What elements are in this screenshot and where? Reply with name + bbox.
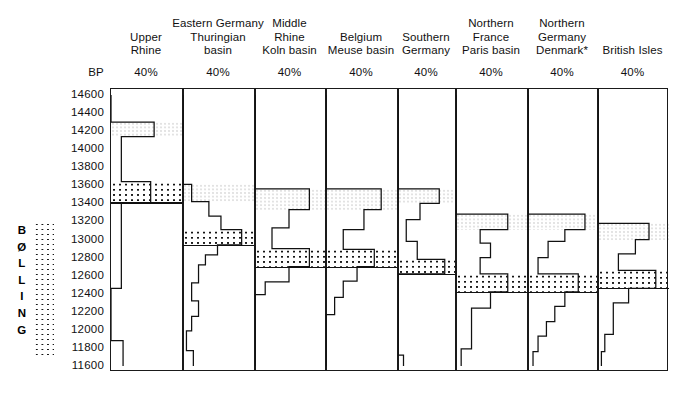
zone-legend-swatch [34,222,54,356]
y-tick-label: 12800 [71,251,104,263]
curve-belgium [326,89,398,370]
column-scale-northern-germany: 40% [527,66,597,78]
y-tick-label: 14000 [71,142,104,154]
column-scale-belgium: 40% [325,66,397,78]
curve-eastern-germany [183,89,255,370]
y-tick-label: 12000 [71,323,104,335]
column-panel-british-isles [598,89,669,370]
y-tick-label: 13400 [71,196,104,208]
curve-upper-rhine [111,89,183,370]
curve-outline [598,95,656,366]
column-panel-belgium [326,89,398,370]
column-title-british-isles: British Isles [583,44,682,58]
curve-outline [326,95,381,366]
curve-outline [111,95,154,366]
y-axis-ticks: 1460014400142001400013800136001340013200… [48,0,104,397]
curve-outline [398,95,445,366]
y-tick-label: 11800 [72,341,104,353]
pollen-diagram-figure: BP 1460014400142001400013800136001340013… [0,0,689,397]
y-tick-label: 13800 [71,160,104,172]
column-scale-northern-france: 40% [455,66,527,78]
curve-southern-germany [398,89,456,370]
column-panel-southern-germany [398,89,456,370]
zone-letter: B [14,222,30,239]
column-scale-upper-rhine: 40% [110,66,182,78]
y-tick-label: 13000 [71,233,104,245]
y-tick-label: 12600 [71,269,104,281]
y-tick-label: 12400 [71,287,104,299]
column-panel-northern-germany [528,89,598,370]
zone-letter: Ø [14,239,30,256]
y-tick-label: 14200 [71,124,104,136]
curve-outline [183,95,242,366]
y-tick-label: 12200 [71,305,104,317]
column-panel-eastern-germany [183,89,255,370]
zone-letter: L [14,272,30,289]
zone-letter: I [14,288,30,305]
zone-letter: N [14,305,30,322]
curve-middle-rhine [255,89,326,370]
y-tick-label: 14600 [71,88,104,100]
zone-legend-label: BØLLING [14,222,30,338]
zone-letter: G [14,322,30,339]
curve-northern-france [456,89,528,370]
y-tick-label: 13200 [71,214,104,226]
y-tick-label: 11600 [72,359,104,371]
column-panel-northern-france [456,89,528,370]
zone-letter: L [14,255,30,272]
column-panel-upper-rhine [111,89,183,370]
plot-area [110,88,668,371]
curve-northern-germany [528,89,598,370]
curve-outline [255,95,309,366]
zone-legend-bolling: BØLLING [10,222,56,357]
y-tick-label: 14400 [71,106,104,118]
column-scale-british-isles: 40% [597,66,668,78]
curve-outline [528,95,585,366]
curve-british-isles [598,89,669,370]
curve-outline [456,95,508,366]
column-panel-middle-rhine [255,89,326,370]
y-tick-label: 13600 [71,178,104,190]
column-scale-middle-rhine: 40% [254,66,325,78]
column-scale-eastern-germany: 40% [182,66,254,78]
column-scale-southern-germany: 40% [397,66,455,78]
